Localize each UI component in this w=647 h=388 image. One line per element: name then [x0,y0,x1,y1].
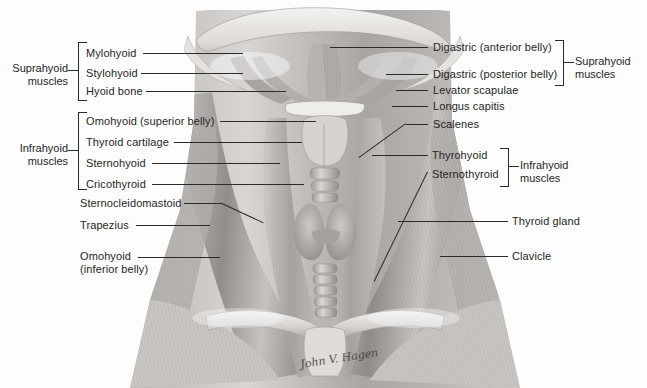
group-label-right-suprahyoid: Suprahyoid muscles [575,55,645,80]
label-levator-scapulae: Levator scapulae [433,84,518,97]
leader-digastric-anterior-belly [330,47,428,48]
label-digastric-posterior-belly: Digastric (posterior belly) [433,68,557,81]
bracket-left-infrahyoid-stem [68,150,79,151]
leader-omohyoid-superior-belly [220,121,316,122]
label-thyroid-cartilage: Thyroid cartilage [86,136,169,149]
bracket-right-suprahyoid-stem [563,62,574,63]
label-thyrohyoid: Thyrohyoid [432,149,487,162]
leader-levator-scapulae [396,90,428,91]
label-thyroid-gland: Thyroid gland [512,215,580,228]
figure-canvas: John V. Hagen Suprahyoid muscles Infrahy… [0,0,647,388]
leader-hyoid-bone [146,91,286,92]
label-clavicle: Clavicle [512,250,551,263]
group-label-right-infrahyoid: Infrahyoid muscles [520,159,592,184]
label-stylohyoid: Stylohyoid [86,67,138,80]
label-sternothyroid: Sternothyroid [432,168,499,181]
label-trapezius: Trapezius [80,219,129,232]
label-omohyoid-inferior-belly: Omohyoid (inferior belly) [80,250,148,275]
leader-trapezius [136,225,210,226]
label-longus-capitis: Longus capitis [433,100,505,113]
label-sternocleidomastoid: Sternocleidomastoid [80,197,182,210]
group-label-left-infrahyoid: Infrahyoid muscles [2,142,68,167]
leader-thyroid-gland [398,221,508,222]
leader-clavicle [440,256,508,257]
leader-scalenes [406,124,428,125]
leader-sternocleidomastoid [184,203,222,204]
label-mylohyoid: Mylohyoid [86,47,136,60]
leader-omohyoid-inferior-belly [138,257,220,258]
leader-thyrohyoid [372,155,428,156]
bracket-left-suprahyoid-stem [68,70,79,71]
label-scalenes: Scalenes [433,118,479,131]
leader-digastric-posterior-belly [386,74,428,75]
leader-sternohyoid [152,163,280,164]
label-cricothyroid: Cricothyroid [86,178,146,191]
leader-stylohyoid [141,73,243,74]
group-label-left-suprahyoid: Suprahyoid muscles [2,62,68,87]
leader-thyroid-cartilage [174,142,302,143]
label-digastric-anterior-belly: Digastric (anterior belly) [433,41,552,54]
label-sternohyoid: Sternohyoid [86,157,146,170]
label-omohyoid-superior-belly: Omohyoid (superior belly) [86,115,214,128]
bracket-right-infrahyoid [500,148,509,187]
bracket-right-infrahyoid-stem [508,166,519,167]
leader-longus-capitis [392,106,428,107]
leader-cricothyroid [152,184,304,185]
leader-mylohyoid [143,53,243,54]
label-hyoid-bone: Hyoid bone [86,85,143,98]
